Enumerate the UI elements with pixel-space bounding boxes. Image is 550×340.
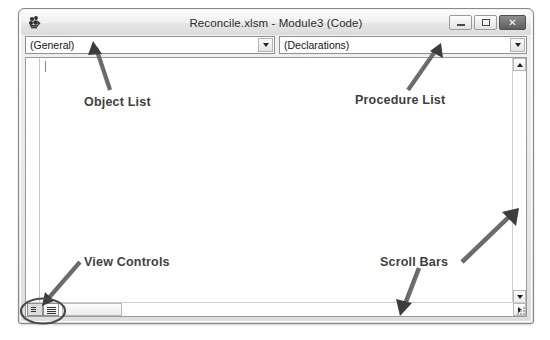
procedure-list-dropdown[interactable]: (Declarations) (279, 36, 527, 54)
minimize-button[interactable] (449, 15, 472, 30)
close-icon: ✕ (508, 18, 516, 28)
full-module-view-button[interactable] (43, 303, 59, 316)
triangle-up-icon (517, 63, 523, 67)
procedure-view-button[interactable] (27, 303, 43, 316)
text-caret (45, 61, 46, 72)
object-list-dropdown[interactable]: (General) (25, 36, 275, 54)
window-controls: ✕ (449, 15, 526, 30)
procedure-list-chevron-down-icon[interactable] (510, 38, 525, 52)
minimize-icon (457, 24, 465, 26)
vbe-code-window: Reconcile.xlsm - Module3 (Code) ✕ (Gener… (18, 8, 534, 324)
maximize-icon (482, 19, 490, 26)
procedure-view-icon (31, 307, 40, 313)
full-module-view-icon (47, 307, 56, 315)
horizontal-scrollbar-thumb[interactable] (62, 303, 122, 316)
object-list-value: (General) (26, 39, 74, 51)
vertical-scrollbar[interactable] (512, 58, 526, 303)
code-pane-dropdown-row: (General) (Declarations) (25, 36, 527, 55)
triangle-down-icon (517, 295, 523, 299)
scroll-up-button[interactable] (513, 58, 526, 71)
title-bar[interactable]: Reconcile.xlsm - Module3 (Code) ✕ (21, 11, 531, 35)
resize-grip[interactable] (514, 304, 525, 315)
margin-indicator-bar (26, 58, 40, 303)
code-editor-pane[interactable] (25, 57, 527, 317)
view-controls-group (27, 303, 59, 316)
procedure-list-value: (Declarations) (280, 39, 349, 51)
object-list-chevron-down-icon[interactable] (258, 38, 273, 52)
maximize-button[interactable] (474, 15, 497, 30)
close-button[interactable]: ✕ (499, 15, 526, 30)
horizontal-scrollbar[interactable] (26, 302, 526, 316)
